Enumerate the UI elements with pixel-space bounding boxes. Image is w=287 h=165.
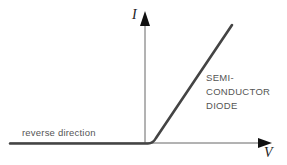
i-axis-arrowhead-icon	[140, 11, 150, 26]
reverse-direction-label: reverse direction	[22, 127, 96, 138]
curve-label-line: DIODE	[206, 99, 270, 113]
curve-label-line: SEMI-	[206, 71, 270, 85]
curve-label-line: CONDUCTOR	[206, 85, 270, 99]
diode-curve	[10, 25, 232, 144]
v-axis-label: V	[264, 145, 273, 161]
i-axis-label: I	[132, 7, 137, 23]
semiconductor-diode-label: SEMI- CONDUCTOR DIODE	[206, 71, 270, 113]
